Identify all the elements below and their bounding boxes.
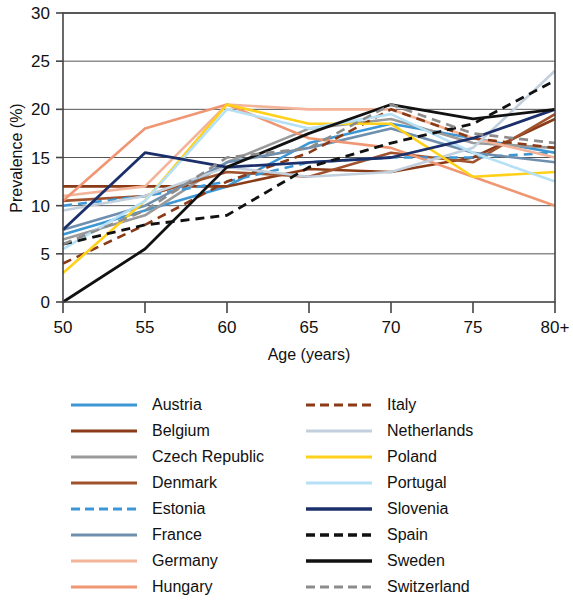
y-tick-label-30: 30 — [31, 4, 50, 23]
legend-label-italy: Italy — [387, 397, 416, 413]
legend-item-czech-republic[interactable]: Czech Republic — [70, 444, 305, 470]
series-line-netherlands — [63, 71, 555, 211]
figure: 051015202530 50556065707580+ Age (years)… — [0, 0, 573, 606]
legend-label-germany: Germany — [152, 553, 218, 569]
legend-item-italy[interactable]: Italy — [305, 392, 565, 418]
series-lines — [63, 71, 555, 302]
legend-swatch-poland-icon — [305, 450, 373, 464]
chart-area: 051015202530 50556065707580+ Age (years)… — [0, 0, 573, 380]
legend-column-left: AustriaBelgiumCzech RepublicDenmarkEston… — [70, 392, 305, 606]
legend-label-slovenia: Slovenia — [387, 501, 448, 517]
legend-label-spain: Spain — [387, 527, 428, 543]
y-tick-label-0: 0 — [41, 293, 50, 312]
x-axis-title: Age (years) — [268, 346, 351, 363]
line-chart: 051015202530 50556065707580+ Age (years)… — [0, 0, 573, 380]
legend-swatch-slovenia-icon — [305, 502, 373, 516]
legend-swatch-spain-icon — [305, 528, 373, 542]
y-tick-label-10: 10 — [31, 197, 50, 216]
legend-swatch-switzerland-icon — [305, 580, 373, 594]
series-line-switzerland — [63, 105, 555, 245]
y-tick-label-20: 20 — [31, 100, 50, 119]
legend-swatch-austria-icon — [70, 398, 138, 412]
legend-item-germany[interactable]: Germany — [70, 548, 305, 574]
legend-label-portugal: Portugal — [387, 475, 447, 491]
legend-item-estonia[interactable]: Estonia — [70, 496, 305, 522]
y-tick-label-25: 25 — [31, 52, 50, 71]
legend-label-denmark: Denmark — [152, 475, 217, 491]
legend-swatch-italy-icon — [305, 398, 373, 412]
legend-swatch-estonia-icon — [70, 502, 138, 516]
legend-label-czech-republic: Czech Republic — [152, 449, 264, 465]
legend-item-sweden[interactable]: Sweden — [305, 548, 565, 574]
legend-item-belgium[interactable]: Belgium — [70, 418, 305, 444]
legend-item-portugal[interactable]: Portugal — [305, 470, 565, 496]
legend-swatch-portugal-icon — [305, 476, 373, 490]
legend-column-right: ItalyNetherlandsPolandPortugalSloveniaSp… — [305, 392, 565, 606]
legend-item-spain[interactable]: Spain — [305, 522, 565, 548]
y-axis-title: Prevalence (%) — [8, 103, 25, 212]
legend-label-netherlands: Netherlands — [387, 423, 473, 439]
legend-item-netherlands[interactable]: Netherlands — [305, 418, 565, 444]
y-tick-label-5: 5 — [41, 245, 50, 264]
legend-swatch-france-icon — [70, 528, 138, 542]
legend-swatch-germany-icon — [70, 554, 138, 568]
legend-label-france: France — [152, 527, 202, 543]
legend-label-hungary: Hungary — [152, 579, 212, 595]
legend-item-denmark[interactable]: Denmark — [70, 470, 305, 496]
legend-item-switzerland[interactable]: Switzerland — [305, 574, 565, 600]
x-axis-tick-labels: 50556065707580+ — [54, 318, 570, 337]
y-axis-tick-labels: 051015202530 — [31, 4, 50, 312]
legend-item-slovenia[interactable]: Slovenia — [305, 496, 565, 522]
legend-swatch-sweden-icon — [305, 554, 373, 568]
legend-item-austria[interactable]: Austria — [70, 392, 305, 418]
legend-item-france[interactable]: France — [70, 522, 305, 548]
x-tick-label-80+: 80+ — [541, 318, 570, 337]
legend-swatch-denmark-icon — [70, 476, 138, 490]
legend-swatch-netherlands-icon — [305, 424, 373, 438]
legend-item-hungary[interactable]: Hungary — [70, 574, 305, 600]
x-tick-label-75: 75 — [464, 318, 483, 337]
x-tick-label-70: 70 — [382, 318, 401, 337]
legend-label-belgium: Belgium — [152, 423, 210, 439]
legend-swatch-czech-republic-icon — [70, 450, 138, 464]
legend-label-sweden: Sweden — [387, 553, 445, 569]
legend-item-poland[interactable]: Poland — [305, 444, 565, 470]
legend-label-austria: Austria — [152, 397, 202, 413]
legend-swatch-belgium-icon — [70, 424, 138, 438]
legend-label-poland: Poland — [387, 449, 437, 465]
legend-swatch-hungary-icon — [70, 580, 138, 594]
y-tick-label-15: 15 — [31, 149, 50, 168]
legend: AustriaBelgiumCzech RepublicDenmarkEston… — [0, 392, 573, 606]
x-tick-label-55: 55 — [136, 318, 155, 337]
legend-label-estonia: Estonia — [152, 501, 205, 517]
x-tick-label-50: 50 — [54, 318, 73, 337]
x-tick-label-65: 65 — [300, 318, 319, 337]
legend-label-switzerland: Switzerland — [387, 579, 470, 595]
x-tick-label-60: 60 — [218, 318, 237, 337]
